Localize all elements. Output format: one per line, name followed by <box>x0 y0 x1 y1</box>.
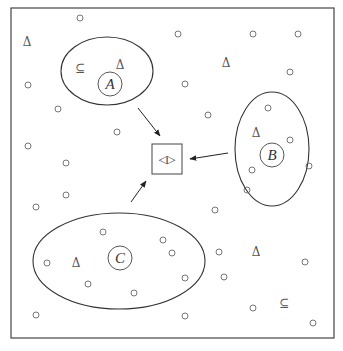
small-circle-icon <box>25 143 31 149</box>
delta-icon: Δ <box>222 56 231 70</box>
small-circle-icon <box>160 237 166 243</box>
small-circle-icon <box>265 105 271 111</box>
region-label: B <box>267 147 276 163</box>
small-circle-icon <box>25 82 31 88</box>
subset-icon: ⊆ <box>279 296 289 310</box>
subset-icon: ⊆ <box>75 61 85 75</box>
small-circle-icon <box>85 281 91 287</box>
small-circle-icon <box>221 274 227 280</box>
small-circle-icon <box>63 160 69 166</box>
small-circle-icon <box>33 204 39 210</box>
small-circle-icon <box>100 229 106 235</box>
arrow-from-b <box>190 153 228 159</box>
small-circle-icon <box>77 15 83 21</box>
center-box: ◁▷ <box>152 144 182 174</box>
delta-icon: Δ <box>116 58 125 72</box>
small-circle-icon <box>310 320 316 326</box>
region-c: C <box>33 213 205 309</box>
small-circle-icon <box>302 259 308 265</box>
small-circle-icon <box>287 69 293 75</box>
small-circle-icon <box>216 249 222 255</box>
small-circle-icon <box>244 187 250 193</box>
small-circle-icon <box>182 313 188 319</box>
diagram-canvas: ABC ΔΔΔΔΔΔ ⊆⊆ ◁▷ <box>0 0 343 351</box>
small-circle-icon <box>114 129 120 135</box>
triangle-markers: ΔΔΔΔΔΔ <box>23 35 261 270</box>
region-label: A <box>104 76 115 92</box>
small-circle-icon <box>295 31 301 37</box>
arrow-from-c <box>131 181 146 202</box>
small-circle-icon <box>44 260 50 266</box>
small-circle-icon <box>33 312 39 318</box>
small-circle-icon <box>169 250 175 256</box>
small-circle-icon <box>205 112 211 118</box>
small-circle-icon <box>182 81 188 87</box>
arrow-from-a <box>138 108 160 136</box>
delta-icon: Δ <box>23 35 32 49</box>
small-circle-icon <box>212 207 218 213</box>
subset-markers: ⊆⊆ <box>75 61 289 310</box>
small-circle-icon <box>55 106 61 112</box>
small-circle-icon <box>182 275 188 281</box>
delta-icon: Δ <box>252 245 261 259</box>
small-circle-icon <box>131 290 137 296</box>
bowtie-icon: ◁▷ <box>159 153 176 166</box>
small-circle-icon <box>287 137 293 143</box>
small-circle-icon <box>63 192 69 198</box>
region-b: B <box>235 92 309 206</box>
delta-icon: Δ <box>252 126 261 140</box>
small-circle-icon <box>175 31 181 37</box>
delta-icon: Δ <box>72 256 81 270</box>
small-circle-icon <box>250 305 256 311</box>
small-circle-icon <box>250 31 256 37</box>
region-label: C <box>115 250 126 266</box>
small-circle-icon <box>249 167 255 173</box>
